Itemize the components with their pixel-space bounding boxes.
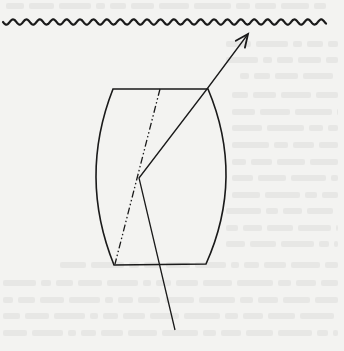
wavy-surface-line (3, 19, 326, 24)
scanned-page (0, 0, 344, 351)
optics-diagram (0, 0, 344, 351)
barrel-body-outline (96, 89, 226, 265)
light-ray-path (139, 34, 248, 330)
